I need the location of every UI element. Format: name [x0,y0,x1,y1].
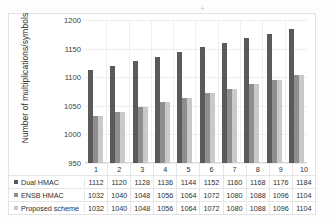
x-axis-label-6: 6 [200,163,223,175]
bar-group-4 [152,20,174,163]
cell-proposed-scheme-5: 1064 [177,202,200,214]
bar-proposed-scheme-4 [165,102,170,163]
bar-group-2 [107,20,129,163]
chart-root: + Number of multiplications/symbols 9501… [0,0,335,224]
cell-proposed-scheme-8: 1088 [247,202,270,214]
bar-group-1 [85,20,107,163]
cell-proposed-scheme-2: 1040 [108,202,131,214]
x-axis-label-2: 2 [108,163,131,175]
x-axis-label-10: 10 [293,163,315,175]
cell-dual-hmac-7: 1160 [224,176,247,188]
legend-label-ensb-hmac: ENSB HMAC [21,191,64,200]
scan-artifact-mark: + [200,6,205,11]
legend-item-dual-hmac[interactable]: Dual HMAC [9,178,85,187]
legend-label-proposed-scheme: Proposed scheme [21,204,79,213]
y-tick-label-1000: 1000 [64,130,81,139]
cell-dual-hmac-2: 1120 [108,176,131,188]
table-row-ensb-hmac: ENSB HMAC1032104010481056106410721080108… [9,188,315,201]
legend-item-ensb-hmac[interactable]: ENSB HMAC [9,191,85,200]
cell-ensb-hmac-8: 1088 [247,189,270,201]
bar-proposed-scheme-5 [187,98,192,163]
x-axis-label-8: 8 [247,163,270,175]
legend-item-proposed-scheme[interactable]: Proposed scheme [9,204,85,213]
cell-proposed-scheme-1: 1032 [85,202,108,214]
data-table: 12345678910Dual HMAC11121120112811361144… [9,163,315,214]
bar-group-7 [219,20,241,163]
value-cells-ensb-hmac: 1032104010481056106410721080108810961104 [85,189,315,201]
bars [196,20,217,163]
bars [107,20,128,163]
x-axis-label-3: 3 [131,163,154,175]
cell-dual-hmac-10: 1184 [293,176,315,188]
category-cells: 12345678910 [85,163,315,175]
cell-dual-hmac-4: 1136 [154,176,177,188]
y-tick-label-1150: 1150 [65,44,81,53]
bar-proposed-scheme-7 [232,89,237,163]
bars [130,20,151,163]
y-tick-label-1100: 1100 [65,73,81,82]
cell-ensb-hmac-4: 1056 [154,189,177,201]
cell-ensb-hmac-5: 1064 [177,189,200,201]
y-tick-label-1200: 1200 [64,16,81,25]
x-axis-label-5: 5 [177,163,200,175]
legend-swatch-icon-dual-hmac [14,180,18,184]
bar-group-6 [196,20,218,163]
bars [85,20,106,163]
cell-ensb-hmac-7: 1080 [224,189,247,201]
cell-proposed-scheme-10: 1104 [293,202,315,214]
cell-proposed-scheme-3: 1048 [131,202,154,214]
bar-proposed-scheme-9 [277,80,282,164]
cell-proposed-scheme-9: 1096 [270,202,293,214]
plot-area: 95010001050110011501200 [85,20,307,163]
table-row-dual-hmac: Dual HMAC1112112011281136114411521160116… [9,175,315,188]
legend-label-dual-hmac: Dual HMAC [21,178,59,187]
x-axis-label-9: 9 [270,163,293,175]
legend-swatch-icon-proposed-scheme [14,206,18,210]
y-axis-title: Number of multiplications/symbols [20,3,36,153]
bars [263,20,284,163]
y-tick-label-1050: 1050 [64,101,81,110]
value-cells-dual-hmac: 1112112011281136114411521160116811761184 [85,176,315,188]
cell-ensb-hmac-6: 1072 [200,189,223,201]
cell-ensb-hmac-9: 1096 [270,189,293,201]
bars [219,20,240,163]
cell-dual-hmac-5: 1144 [177,176,200,188]
bar-group-5 [174,20,196,163]
bars [286,20,307,163]
x-axis-label-1: 1 [85,163,108,175]
cell-ensb-hmac-3: 1048 [131,189,154,201]
cell-ensb-hmac-2: 1040 [108,189,131,201]
cell-proposed-scheme-7: 1080 [224,202,247,214]
bars [152,20,173,163]
x-axis-label-4: 4 [154,163,177,175]
bar-group-3 [130,20,152,163]
cell-proposed-scheme-4: 1056 [154,202,177,214]
bar-proposed-scheme-6 [210,93,215,163]
bars [241,20,262,163]
bar-proposed-scheme-2 [120,112,125,163]
bar-proposed-scheme-8 [254,84,259,163]
cell-proposed-scheme-6: 1072 [200,202,223,214]
bar-group-8 [241,20,263,163]
bar-group-10 [286,20,307,163]
cell-dual-hmac-8: 1168 [247,176,270,188]
bar-group-9 [263,20,285,163]
legend-swatch-icon-ensb-hmac [14,193,18,197]
table-row-categories: 12345678910 [9,163,315,175]
table-row-proposed-scheme: Proposed scheme1032104010481056106410721… [9,201,315,214]
cell-ensb-hmac-10: 1104 [293,189,315,201]
cell-dual-hmac-1: 1112 [85,176,108,188]
bar-proposed-scheme-1 [98,116,103,163]
bars [174,20,195,163]
cell-ensb-hmac-1: 1032 [85,189,108,201]
cell-dual-hmac-3: 1128 [131,176,154,188]
bar-groups [85,20,307,163]
cell-dual-hmac-9: 1176 [270,176,293,188]
x-axis-label-7: 7 [224,163,247,175]
value-cells-proposed-scheme: 1032104010481056106410721080108810961104 [85,202,315,214]
cell-dual-hmac-6: 1152 [200,176,223,188]
bar-proposed-scheme-10 [299,75,304,163]
chart-frame: Number of multiplications/symbols 950100… [8,13,316,215]
bar-proposed-scheme-3 [143,107,148,163]
